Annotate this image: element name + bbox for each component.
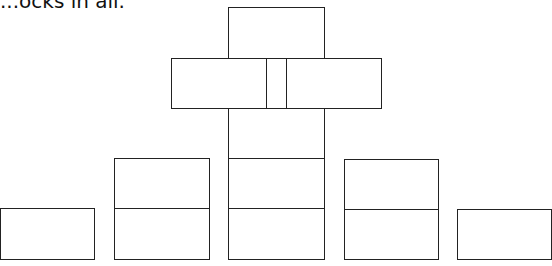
block-center-col-3	[228, 208, 325, 260]
block-right-stack-bottom	[344, 209, 439, 260]
block-left-stack-bottom	[114, 208, 210, 260]
caption-text: ...ocks in all.	[0, 0, 125, 13]
block-far-left	[0, 208, 95, 260]
block-right-stack-top	[344, 159, 439, 210]
block-mid-right	[286, 58, 382, 109]
block-top	[228, 7, 325, 59]
block-center-col-1	[228, 108, 325, 159]
block-center-col-2	[228, 158, 325, 209]
block-left-stack-top	[114, 158, 210, 209]
block-far-right	[457, 209, 552, 260]
block-mid-narrow	[266, 58, 287, 109]
block-mid-left	[171, 58, 267, 109]
